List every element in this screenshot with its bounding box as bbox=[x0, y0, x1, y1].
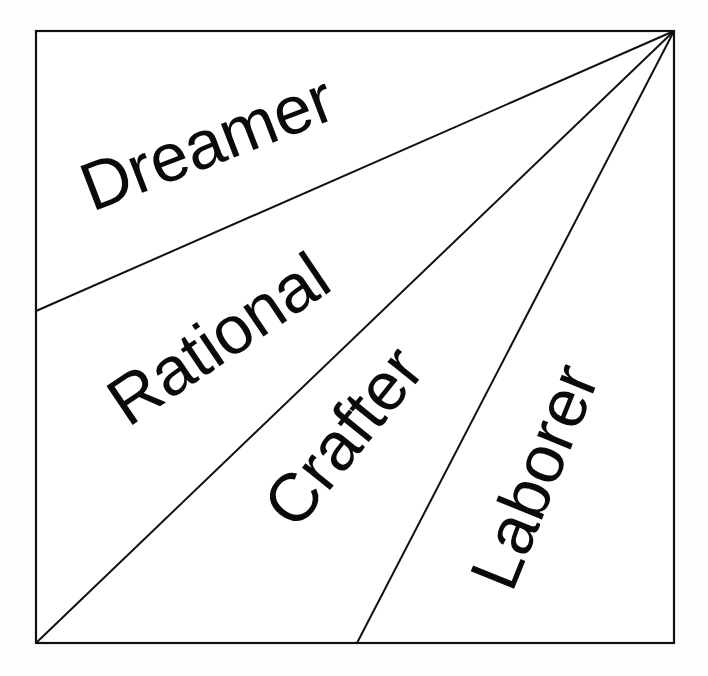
personality-fan-diagram: Dreamer Rational Crafter Laborer bbox=[0, 0, 708, 676]
